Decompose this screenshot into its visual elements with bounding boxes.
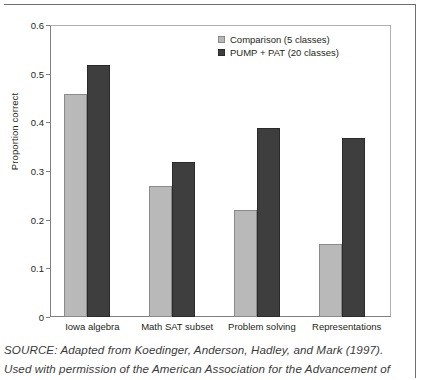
x-axis-tick-labels: Iowa algebraMath SAT subsetProblem solvi… — [51, 321, 390, 337]
legend-label: PUMP + PAT (20 classes) — [230, 46, 339, 59]
y-tick-label: 0.6 — [0, 20, 44, 31]
y-tick-mark — [46, 317, 50, 318]
y-tick-label: 0.2 — [0, 214, 44, 225]
bar-chart: Proportion correct 00.10.20.30.40.50.6 I… — [0, 0, 427, 340]
source-note: SOURCE: Adapted from Koedinger, Anderson… — [4, 340, 404, 378]
y-tick-label: 0.4 — [0, 117, 44, 128]
bar — [234, 210, 257, 317]
bar — [257, 128, 280, 317]
x-tick-label: Iowa algebra — [65, 321, 119, 332]
y-tick-label: 0.3 — [0, 166, 44, 177]
legend-swatch-icon — [218, 49, 225, 56]
bar-series-container — [51, 26, 390, 317]
legend-item: Comparison (5 classes) — [218, 33, 339, 46]
bar-group — [221, 26, 306, 317]
source-note-line-1: SOURCE: Adapted from Koedinger, Anderson… — [4, 340, 404, 359]
source-note-line-2: Used with permission of the American Ass… — [4, 359, 404, 378]
legend-swatch-icon — [218, 36, 225, 43]
bar — [87, 65, 110, 317]
bar — [64, 94, 87, 317]
bar — [172, 162, 195, 317]
x-tick-label: Math SAT subset — [141, 321, 213, 332]
figure-page: Proportion correct 00.10.20.30.40.50.6 I… — [0, 0, 427, 380]
y-tick-label: 0.1 — [0, 263, 44, 274]
bar — [319, 244, 342, 317]
chart-legend: Comparison (5 classes)PUMP + PAT (20 cla… — [218, 33, 339, 59]
legend-item: PUMP + PAT (20 classes) — [218, 46, 339, 59]
legend-label: Comparison (5 classes) — [230, 33, 330, 46]
x-tick-label: Representations — [312, 321, 381, 332]
bar-group — [305, 26, 390, 317]
bar-group — [51, 26, 136, 317]
y-tick-label: 0.5 — [0, 68, 44, 79]
bar — [342, 138, 365, 317]
bar-group — [136, 26, 221, 317]
y-tick-label: 0 — [0, 312, 44, 323]
bar — [149, 186, 172, 317]
x-tick-label: Problem solving — [228, 321, 296, 332]
